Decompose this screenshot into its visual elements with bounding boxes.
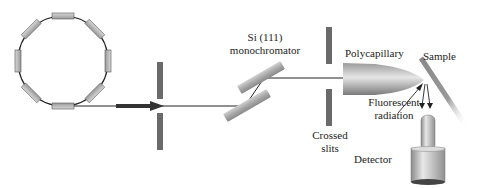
beamline-diagram: Si (111) monochromator Polycapillary Sam… [0, 0, 478, 188]
slits-label-line2: slits [321, 142, 339, 154]
monochromator-label-line2: monochromator [230, 44, 301, 56]
bending-magnets [15, 13, 111, 109]
detector-label: Detector [354, 153, 392, 165]
fluorescent-label-line2: radiation [374, 109, 414, 121]
si-111-monochromator [223, 61, 285, 122]
beam-arrow-icon [150, 101, 164, 111]
sample-label: Sample [423, 50, 456, 62]
fluorescent-label-line1: Fluorescent [368, 96, 419, 108]
monochromator-label-line1: Si (111) [248, 31, 283, 44]
polycapillary-optic [343, 63, 424, 95]
slits-label-line1: Crossed [312, 129, 348, 141]
storage-ring [15, 13, 111, 109]
polycapillary-label: Polycapillary [345, 47, 404, 59]
crossed-slits [326, 27, 332, 126]
detector [411, 115, 445, 185]
x-ray-beam [74, 78, 345, 111]
